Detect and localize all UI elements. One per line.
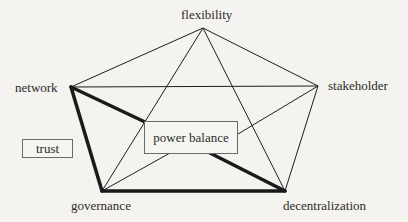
edge-network-powerbalance: [71, 87, 145, 122]
edge-flexibility-decentralization: [203, 28, 285, 191]
node-label-decentralization: decentralization: [283, 199, 366, 213]
edge-powerbalance-decentralization: [210, 153, 285, 191]
thin-edges: [71, 28, 318, 191]
edge-network-stakeholder: [71, 86, 318, 87]
edge-powerbalance-governance: [102, 153, 170, 191]
power-balance-box: power balance: [144, 121, 238, 154]
diagram-edges: [0, 0, 408, 222]
power-balance-label: power balance: [153, 130, 228, 146]
trust-label: trust: [36, 141, 59, 157]
node-label-governance: governance: [71, 199, 131, 213]
trust-box: trust: [22, 139, 73, 158]
edge-network-governance: [71, 87, 102, 191]
edge-flexibility-network: [71, 28, 203, 87]
edge-flexibility-stakeholder: [203, 28, 318, 86]
node-label-stakeholder: stakeholder: [328, 79, 388, 93]
edge-stakeholder-powerbalance: [238, 86, 318, 134]
edge-stakeholder-decentralization: [285, 86, 318, 191]
node-label-flexibility: flexibility: [181, 8, 232, 22]
node-label-network: network: [15, 81, 58, 95]
